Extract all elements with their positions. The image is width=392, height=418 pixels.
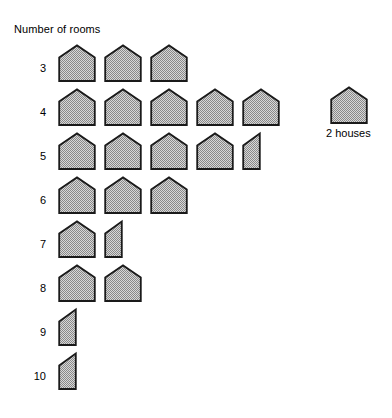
house-icon <box>242 88 280 126</box>
row-label: 8 <box>20 282 46 295</box>
house-icon <box>150 176 188 214</box>
house-icon <box>58 176 96 214</box>
house-icon <box>104 176 142 214</box>
row-label: 10 <box>20 370 46 383</box>
pictogram-chart: Number of rooms 345678910 2 houses <box>0 0 392 418</box>
house-icon <box>330 86 368 124</box>
pictogram-row: 3 <box>0 44 392 84</box>
legend-label: 2 houses <box>326 127 371 140</box>
pictogram-row: 7 <box>0 220 392 260</box>
row-symbols <box>58 44 206 84</box>
chart-legend: 2 houses <box>326 86 392 146</box>
row-symbols <box>58 220 160 260</box>
house-icon <box>58 132 96 170</box>
pictogram-row: 9 <box>0 308 392 348</box>
row-label: 5 <box>20 150 46 163</box>
pictogram-row: 6 <box>0 176 392 216</box>
house-icon <box>150 88 188 126</box>
house-icon <box>104 88 142 126</box>
row-symbols <box>58 88 298 128</box>
house-icon <box>104 264 142 302</box>
chart-title: Number of rooms <box>14 23 100 36</box>
row-symbols <box>58 308 114 348</box>
house-icon <box>150 132 188 170</box>
row-label: 9 <box>20 326 46 339</box>
row-label: 3 <box>20 62 46 75</box>
half-house-icon <box>104 220 123 258</box>
pictogram-row: 10 <box>0 352 392 392</box>
house-icon <box>58 44 96 82</box>
row-symbols <box>58 264 160 304</box>
house-icon <box>58 220 96 258</box>
house-icon <box>196 88 234 126</box>
house-icon <box>104 132 142 170</box>
row-label: 6 <box>20 194 46 207</box>
house-icon <box>196 132 234 170</box>
row-symbols <box>58 176 206 216</box>
house-icon <box>58 264 96 302</box>
row-symbols <box>58 132 298 172</box>
row-label: 7 <box>20 238 46 251</box>
half-house-icon <box>242 132 261 170</box>
pictogram-row: 8 <box>0 264 392 304</box>
half-house-icon <box>58 308 77 346</box>
row-symbols <box>58 352 114 392</box>
row-label: 4 <box>20 106 46 119</box>
house-icon <box>58 88 96 126</box>
house-icon <box>104 44 142 82</box>
house-icon <box>150 44 188 82</box>
half-house-icon <box>58 352 77 390</box>
